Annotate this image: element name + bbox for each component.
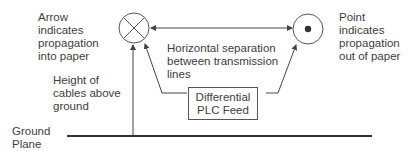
height-of-cables-label: Height of cables above ground — [53, 74, 121, 113]
horizontal-separation-label: Horizontal separation between transmissi… — [167, 42, 278, 81]
arrow-into-paper-label: Arrow indicates propagation into paper — [38, 11, 99, 63]
dot-circle-icon — [293, 14, 323, 44]
differential-plc-feed-box: Differential PLC Feed — [188, 87, 258, 120]
cross-circle-icon — [119, 13, 149, 43]
point-out-of-paper-label: Point indicates propagation out of paper — [339, 11, 400, 63]
feed-box-label: Differential PLC Feed — [196, 91, 251, 117]
ground-plane-label: Ground Plane — [12, 125, 50, 151]
